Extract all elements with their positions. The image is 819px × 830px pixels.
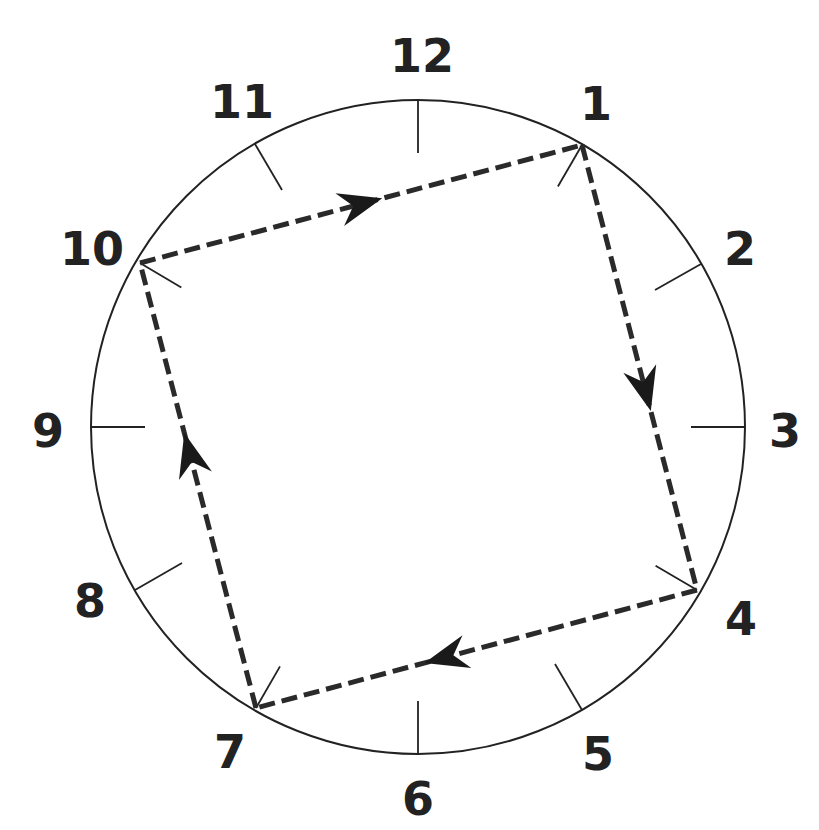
numeral-7: 7 [214,725,246,779]
tick-5 [555,664,582,710]
numeral-10: 10 [60,222,124,276]
numeral-2: 2 [724,222,756,276]
hour-numerals: 121234567891011 [32,29,801,826]
tick-2 [655,264,701,290]
tick-11 [255,144,282,190]
cycle-edges [140,145,697,708]
numeral-8: 8 [74,574,106,628]
numeral-4: 4 [725,592,757,646]
numeral-6: 6 [402,772,434,826]
numeral-9: 9 [32,404,64,458]
numeral-5: 5 [582,727,614,781]
edge-4-to-7 [256,590,697,708]
numeral-3: 3 [769,404,801,458]
hour-ticks [91,100,745,754]
vertex-markers [140,145,697,708]
numeral-12: 12 [390,29,454,83]
numeral-11: 11 [210,75,274,129]
edge-1-to-4 [582,145,697,590]
edge-7-to-10 [140,263,256,708]
clock-face [91,100,745,754]
vertex-marker-7 [256,666,280,708]
clock-cycle-diagram: 121234567891011 [0,0,819,830]
direction-arrows [179,193,656,668]
vertex-marker-1 [558,145,582,187]
tick-8 [135,563,182,590]
numeral-1: 1 [580,77,612,131]
